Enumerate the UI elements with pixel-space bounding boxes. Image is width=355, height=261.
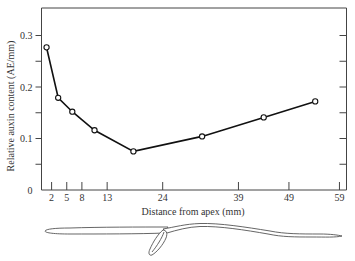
- data-point-marker: [70, 109, 75, 114]
- data-point-marker: [92, 128, 97, 133]
- y-axis-title: Relative auxin content (AE/mm): [5, 41, 17, 172]
- y-tick-label: 0.3: [20, 30, 33, 41]
- x-tick-label: 2: [49, 192, 54, 203]
- x-tick-label: 59: [334, 192, 344, 203]
- x-tick-label: 24: [158, 192, 168, 203]
- root-right-segment: [163, 223, 342, 237]
- x-tick-label: 39: [233, 192, 243, 203]
- data-point-marker: [56, 95, 61, 100]
- y-tick-label: 0.2: [20, 82, 33, 93]
- x-tick-label: 8: [79, 192, 84, 203]
- y-tick-label: 0: [28, 185, 33, 196]
- series-line: [47, 47, 316, 151]
- data-series: [44, 45, 318, 154]
- x-axis-ticks: 2581324394959: [49, 182, 344, 203]
- data-point-marker: [313, 99, 318, 104]
- auxin-distance-chart: 00.10.20.3 2581324394959 Relative auxin …: [0, 0, 355, 261]
- data-point-marker: [131, 149, 136, 154]
- y-axis-ticks: 00.10.20.3: [20, 30, 42, 196]
- plot-frame: [42, 8, 347, 190]
- x-axis-title: Distance from apex (mm): [141, 206, 244, 218]
- data-point-marker: [261, 115, 266, 120]
- root-left-segment: [45, 227, 168, 234]
- x-tick-label: 5: [64, 192, 69, 203]
- data-point-marker: [199, 134, 204, 139]
- y-tick-label: 0.1: [20, 133, 33, 144]
- seedling-root-illustration: [45, 223, 342, 255]
- x-tick-label: 13: [102, 192, 112, 203]
- x-tick-label: 49: [284, 192, 294, 203]
- data-point-marker: [44, 45, 49, 50]
- right-axis-ticks: [340, 36, 347, 165]
